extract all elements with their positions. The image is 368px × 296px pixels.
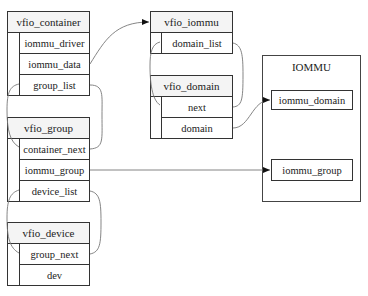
link-group-list-to-container-next-right [90,85,102,149]
field-dev: dev [20,265,89,286]
field-container-next: container_next [20,139,89,160]
vfio-group-gutter [8,139,20,201]
vfio-device-gutter [8,244,20,285]
vfio-domain-title: vfio_domain [151,76,232,97]
vfio-group-struct: vfio_group container_next iommu_group de… [7,117,90,202]
vfio-domain-gutter [151,97,162,138]
iommu-domain-box: iommu_domain [271,90,353,110]
vfio-container-struct: vfio_container iommu_driver iommu_data g… [7,11,90,96]
field-group-next: group_next [20,244,89,265]
vfio-container-title: vfio_container [8,12,89,33]
vfio-device-struct: vfio_device group_next dev [7,222,90,286]
field-device-list: device_list [20,181,89,202]
field-domain: domain [162,118,232,139]
field-next: next [162,97,232,118]
field-group-list: group_list [20,75,89,96]
vfio-iommu-gutter [151,33,162,53]
iommu-group-box: iommu_group [271,159,353,181]
link-domain-list-to-next-right [233,43,243,107]
vfio-container-gutter [8,33,20,95]
link-iommu-data-to-vfio-iommu [90,22,149,64]
field-iommu-group: iommu_group [20,160,89,181]
vfio-domain-struct: vfio_domain next domain [150,75,233,139]
field-iommu-data: iommu_data [20,54,89,75]
iommu-title: IOMMU [263,61,360,73]
field-domain-list: domain_list [162,33,232,54]
link-device-list-to-group-next-right [90,191,101,254]
vfio-iommu-struct: vfio_iommu domain_list [150,11,233,54]
field-iommu-driver: iommu_driver [20,33,89,54]
vfio-iommu-title: vfio_iommu [151,12,232,33]
vfio-group-title: vfio_group [8,118,89,139]
vfio-device-title: vfio_device [8,223,89,244]
